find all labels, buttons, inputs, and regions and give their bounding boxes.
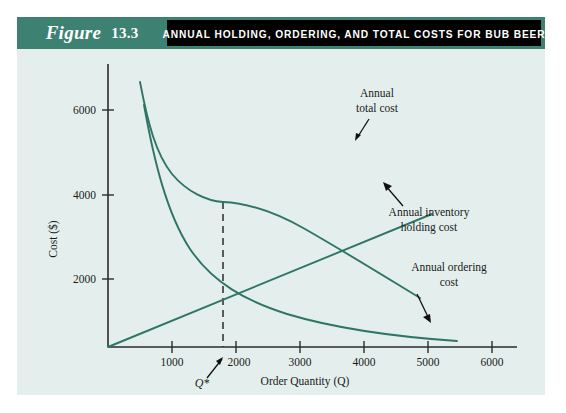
figure-title-text: ANNUAL HOLDING, ORDERING, AND TOTAL COST… <box>162 27 545 40</box>
annotation-annual-ordering-cost-line1: Annual ordering <box>411 261 487 274</box>
annual-inventory-holding-cost-line <box>108 214 432 347</box>
y-tick-label-4000: 4000 <box>73 189 96 201</box>
y-tick-label-2000: 2000 <box>73 273 96 285</box>
annotation-annual-ordering-cost-arrow-head <box>423 314 431 323</box>
annotation-annual-inventory-holding-cost-line1: Annual inventory <box>389 206 470 219</box>
figure-root: Figure 13.3 ANNUAL HOLDING, ORDERING, AN… <box>0 0 566 413</box>
annotation-annual-ordering-cost: Annual ordering cost <box>411 261 487 323</box>
x-tick-label-1000: 1000 <box>161 356 184 368</box>
annotation-annual-total-cost-line2: total cost <box>356 102 399 114</box>
x-tick-label-4000: 4000 <box>353 356 376 368</box>
y-axis-title: Cost ($) <box>47 220 60 258</box>
figure-word-label: Figure <box>46 22 102 44</box>
annotation-annual-ordering-cost-line2: cost <box>440 276 459 288</box>
x-tick-label-5000: 5000 <box>417 356 440 368</box>
annotation-annual-inventory-holding-cost-arrow-head <box>383 182 392 191</box>
annotation-annual-inventory-holding-cost: Annual inventory holding cost <box>383 182 470 234</box>
annotation-annual-total-cost: Annual total cost <box>355 87 399 141</box>
figure-header-bar: Figure 13.3 ANNUAL HOLDING, ORDERING, AN… <box>17 17 545 49</box>
x-tick-label-6000: 6000 <box>481 356 504 368</box>
figure-number-label: 13.3 <box>111 25 138 42</box>
x-tick-label-2000: 2000 <box>228 356 251 368</box>
x-axis-title: Order Quantity (Q) <box>261 375 350 388</box>
optimal-quantity-arrow-head <box>216 357 223 365</box>
chart-plot-area: 6000 4000 2000 Cost ($) 1000 2000 3000 4… <box>17 49 545 395</box>
annotation-annual-total-cost-line1: Annual <box>360 87 394 99</box>
figure-number-block: Figure 13.3 <box>17 17 167 49</box>
x-tick-label-3000: 3000 <box>289 356 312 368</box>
annotation-annual-inventory-holding-cost-line2: holding cost <box>401 221 458 234</box>
figure-title-block: ANNUAL HOLDING, ORDERING, AND TOTAL COST… <box>167 20 541 46</box>
y-tick-label-6000: 6000 <box>73 104 96 116</box>
annual-total-cost-curve <box>140 82 420 298</box>
